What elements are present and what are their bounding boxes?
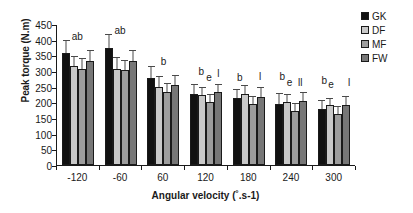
x-axis-tick-label: 120 <box>184 172 227 186</box>
bar-gk-300[interactable] <box>318 109 326 165</box>
significance-annotation: b <box>321 75 327 86</box>
bar-fw-180[interactable] <box>257 97 265 165</box>
bar-fw-120[interactable] <box>214 92 222 165</box>
error-bar-cap <box>172 75 179 76</box>
x-axis-tick-mark <box>227 166 228 170</box>
bar-mf-120[interactable] <box>206 102 214 165</box>
error-bar-cap <box>334 106 341 107</box>
bar-mf-180[interactable] <box>249 104 257 165</box>
bar-fw--60[interactable] <box>129 61 137 165</box>
bar-slot <box>105 25 113 165</box>
bar-mf-60[interactable] <box>163 92 171 165</box>
error-bar <box>244 85 245 94</box>
significance-annotation: l <box>217 68 219 79</box>
error-bar-cap <box>233 89 240 90</box>
error-bar-cap <box>300 92 307 93</box>
bar-slot <box>78 25 86 165</box>
y-axis-tick-label: 300 <box>35 67 52 78</box>
bar-mf-240[interactable] <box>291 111 299 165</box>
error-bar <box>287 94 288 103</box>
significance-annotation: ab <box>72 31 83 42</box>
y-axis-tick-label: 250 <box>35 82 52 93</box>
bar-slot <box>155 25 163 165</box>
bar-slot <box>283 25 291 165</box>
error-bar <box>194 84 195 93</box>
y-axis-tick-labels: 050100150200250300350400450 <box>26 19 52 171</box>
chart-legend: GKDFMFFW <box>361 9 409 65</box>
significance-annotation: ll <box>298 77 302 88</box>
x-axis-tick-labels: -120-6060120180240300 <box>56 172 355 186</box>
y-axis-tick-label: 50 <box>41 145 52 156</box>
bar-gk-120[interactable] <box>190 94 198 165</box>
bar-mf--60[interactable] <box>121 70 129 165</box>
y-axis-tick-label: 400 <box>35 35 52 46</box>
bar-df-240[interactable] <box>283 102 291 165</box>
bar-slot <box>62 25 70 165</box>
error-bar-cap <box>326 98 333 99</box>
x-axis-tick-label: -120 <box>56 172 99 186</box>
error-bar-cap <box>164 83 171 84</box>
y-axis-tick-mark <box>52 119 56 120</box>
significance-annotation: ab <box>115 25 126 36</box>
error-bar-cap <box>121 60 128 61</box>
bar-gk-240[interactable] <box>275 104 283 165</box>
bar-fw--120[interactable] <box>86 61 94 165</box>
bar-mf-300[interactable] <box>334 114 342 165</box>
bar-fw-240[interactable] <box>299 101 307 165</box>
bar-fw-60[interactable] <box>171 85 179 165</box>
significance-annotation: b <box>198 66 204 77</box>
y-axis-tick-label: 100 <box>35 129 52 140</box>
error-bar <box>108 34 109 48</box>
bar-gk--60[interactable] <box>105 48 113 166</box>
y-axis-tick-mark <box>52 72 56 73</box>
x-axis-tick-mark <box>141 166 142 170</box>
bar-group <box>270 25 313 165</box>
significance-annotation: e <box>287 77 293 88</box>
y-axis-tick-label: 150 <box>35 114 52 125</box>
significance-annotation: b <box>161 56 167 67</box>
error-bar <box>175 75 176 85</box>
error-bar <box>321 100 322 109</box>
error-bar <box>202 87 203 95</box>
bar-fw-300[interactable] <box>342 105 350 165</box>
bar-gk-180[interactable] <box>233 98 241 165</box>
bar-slot <box>121 25 129 165</box>
bar-slot <box>275 25 283 165</box>
error-bar <box>337 106 338 114</box>
error-bar-cap <box>148 66 155 67</box>
legend-item-df[interactable]: DF <box>361 23 409 37</box>
bar-df-180[interactable] <box>241 94 249 165</box>
significance-annotation: l <box>259 71 261 82</box>
y-axis-tick-mark <box>52 25 56 26</box>
bar-df-300[interactable] <box>326 105 334 165</box>
bar-df-120[interactable] <box>198 95 206 165</box>
legend-swatch-icon <box>361 40 369 48</box>
error-bar-cap <box>105 34 112 35</box>
bar-slot <box>241 25 249 165</box>
bar-gk-60[interactable] <box>147 78 155 165</box>
legend-item-gk[interactable]: GK <box>361 9 409 23</box>
error-bar <box>210 94 211 102</box>
legend-item-fw[interactable]: FW <box>361 51 409 65</box>
x-axis-tick-mark <box>99 166 100 170</box>
error-bar <box>329 98 330 106</box>
error-bar <box>74 56 75 66</box>
plot-area <box>56 25 355 166</box>
error-bar-cap <box>276 93 283 94</box>
x-axis-tick-mark <box>184 166 185 170</box>
error-bar <box>124 60 125 70</box>
error-bar-cap <box>257 87 264 88</box>
error-bar-cap <box>249 96 256 97</box>
legend-item-mf[interactable]: MF <box>361 37 409 51</box>
bar-gk--120[interactable] <box>62 53 70 165</box>
bar-df-60[interactable] <box>155 87 163 165</box>
bar-df--60[interactable] <box>113 69 121 166</box>
error-bar <box>295 103 296 111</box>
error-bar <box>303 92 304 101</box>
legend-swatch-icon <box>361 54 369 62</box>
bar-df--120[interactable] <box>70 66 78 165</box>
error-bar-cap <box>207 94 214 95</box>
bar-slot <box>326 25 334 165</box>
bar-mf--120[interactable] <box>78 69 86 166</box>
error-bar <box>82 58 83 68</box>
